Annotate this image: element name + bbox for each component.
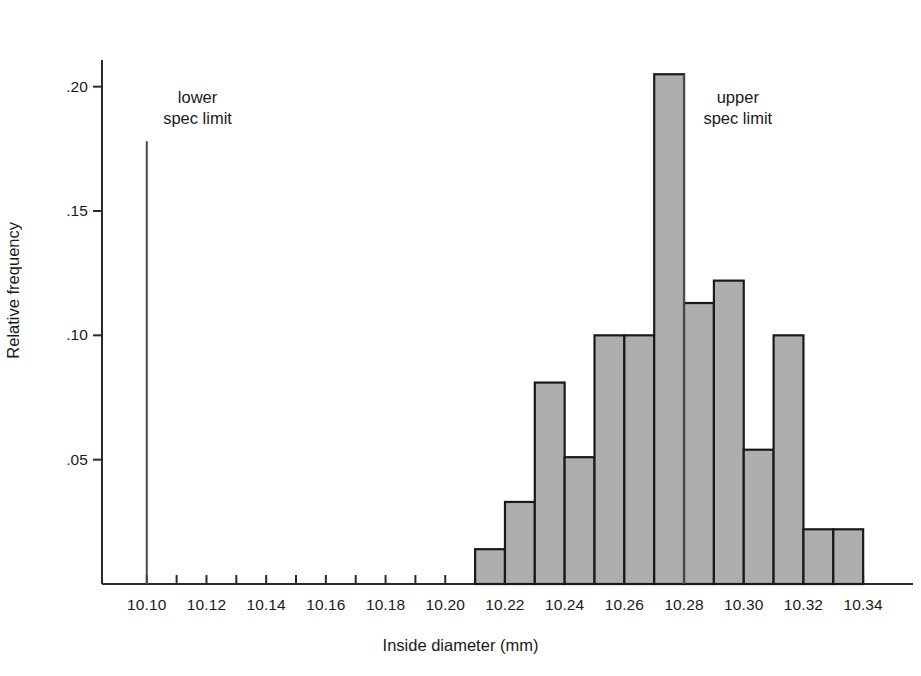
lower-spec-limit-label-line2: spec limit [163,108,232,129]
upper-spec-limit-label: upperspec limit [703,87,772,129]
histogram-bar[interactable] [714,281,744,584]
x-tick-label-1: 10.12 [187,596,226,614]
x-tick-label-3: 10.16 [306,596,345,614]
x-tick-label-11: 10.32 [784,596,823,614]
plot-canvas [0,0,921,676]
lower-spec-limit-label: lowerspec limit [163,87,232,129]
histogram-bar[interactable] [774,335,804,584]
x-tick-label-2: 10.14 [247,596,286,614]
histogram-figure: Relative frequency Inside diameter (mm) … [0,0,921,676]
histogram-bar[interactable] [475,549,505,584]
x-tick-label-9: 10.28 [664,596,703,614]
y-axis-title: Relative frequency [4,222,32,359]
upper-spec-limit-label-line1: upper [703,87,772,108]
x-tick-label-4: 10.18 [366,596,405,614]
y-tick-label-0: .05 [44,451,88,469]
x-tick-label-12: 10.34 [843,596,882,614]
upper-spec-limit-label-line2: spec limit [703,108,772,129]
lower-spec-limit-label-line1: lower [163,87,232,108]
x-tick-label-10: 10.30 [724,596,763,614]
x-tick-label-6: 10.22 [485,596,524,614]
y-tick-label-2: .15 [44,202,88,220]
x-axis-title: Inside diameter (mm) [0,636,921,655]
histogram-bar[interactable] [595,335,625,584]
histogram-bar[interactable] [803,529,833,584]
histogram-bar[interactable] [535,383,565,584]
x-tick-label-8: 10.26 [605,596,644,614]
x-tick-label-0: 10.10 [127,596,166,614]
histogram-bar[interactable] [565,457,595,584]
histogram-bar[interactable] [654,74,684,584]
histogram-bar[interactable] [505,502,535,584]
x-tick-label-5: 10.20 [426,596,465,614]
histogram-bar[interactable] [744,450,774,584]
y-tick-label-1: .10 [44,326,88,344]
histogram-bar[interactable] [684,303,714,584]
histogram-bar[interactable] [624,335,654,584]
histogram-bar[interactable] [833,529,863,584]
y-tick-label-3: .20 [44,78,88,96]
x-tick-label-7: 10.24 [545,596,584,614]
